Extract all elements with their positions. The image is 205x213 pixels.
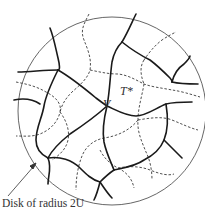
dual-tree-label: T* <box>120 84 133 99</box>
disk-pointer-arrow <box>8 163 36 196</box>
vertex-label: V <box>103 97 110 112</box>
disk-caption: Disk of radius 2U <box>2 197 84 209</box>
disk-boundary <box>18 17 205 205</box>
